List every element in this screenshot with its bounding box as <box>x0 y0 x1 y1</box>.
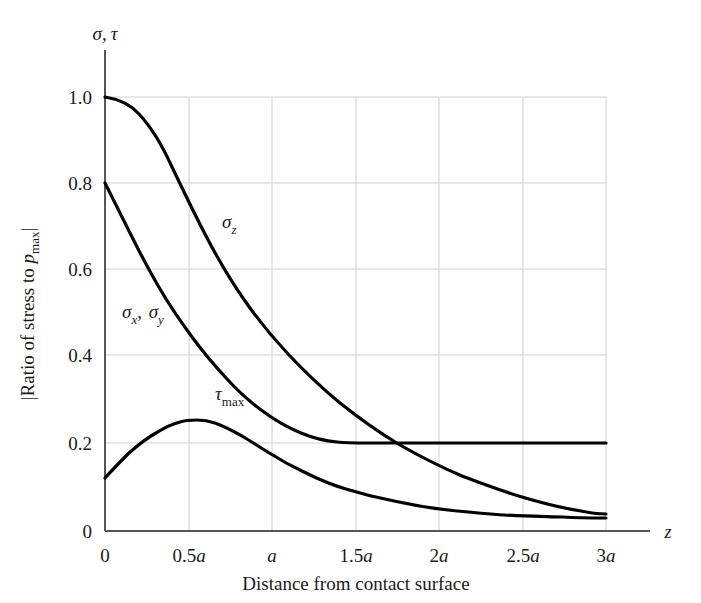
x-tick-2.5a-number: 2.5 <box>506 545 530 566</box>
y-axis-title-suffix: | <box>17 228 38 232</box>
tau-max-label-subscript: max <box>222 394 245 409</box>
sigma-y-label-subscript: y <box>156 312 164 327</box>
y-tick-label-1.0: 1.0 <box>68 87 92 108</box>
x-tick-label-0.5a: 0.5a <box>172 545 205 566</box>
y-tick-label-0: 0 <box>83 521 93 542</box>
x-tick-label-a: a <box>267 545 277 566</box>
y-tick-label-0.2: 0.2 <box>68 433 92 454</box>
y-axis-title-variable: p <box>17 254 38 266</box>
x-tick-0.5a-number: 0.5 <box>172 545 196 566</box>
y-tick-label-0.4: 0.4 <box>68 345 92 366</box>
x-tick-label-2.5a: 2.5a <box>506 545 539 566</box>
x-tick-2a-unit: a <box>439 545 449 566</box>
y-axis-name-sigma-tau: σ,τ <box>93 23 119 44</box>
x-tick-1.5a-number: 1.5 <box>339 545 363 566</box>
x-tick-0.5a-unit: a <box>196 545 206 566</box>
sigma-xy-label-comma: , <box>137 301 147 322</box>
x-tick-2a-number: 2 <box>430 545 440 566</box>
x-tick-label-2a: 2a <box>430 545 449 566</box>
y-axis-title-subscript: max <box>27 231 42 254</box>
sigma-z-label-subscript: z <box>230 222 236 237</box>
x-axis-title: Distance from contact surface <box>242 573 469 594</box>
x-axis-name-z: z <box>663 522 671 542</box>
y-axis-name-comma: , <box>102 23 107 44</box>
y-axis-name-tau: τ <box>111 23 119 44</box>
x-tick-label-3a: 3a <box>597 545 616 566</box>
y-axis-title-prefix: |Ratio of stress to <box>17 263 38 400</box>
x-tick-3a-number: 3 <box>597 545 607 566</box>
x-tick-2.5a-unit: a <box>530 545 540 566</box>
y-tick-label-0.6: 0.6 <box>68 259 92 280</box>
x-tick-label-1.5a: 1.5a <box>339 545 372 566</box>
x-tick-3a-unit: a <box>606 545 616 566</box>
chart-svg: 1.0 0.8 0.6 0.4 0.2 0 0 0.5a a 1.5a 2a 2… <box>0 0 701 603</box>
stress-ratio-chart-figure: 1.0 0.8 0.6 0.4 0.2 0 0 0.5a a 1.5a 2a 2… <box>0 0 701 603</box>
x-tick-1.5a-unit: a <box>363 545 373 566</box>
x-tick-label-0: 0 <box>100 545 110 566</box>
y-tick-label-0.8: 0.8 <box>68 173 92 194</box>
x-tick-labels: 0 0.5a a 1.5a 2a 2.5a 3a <box>100 545 615 566</box>
